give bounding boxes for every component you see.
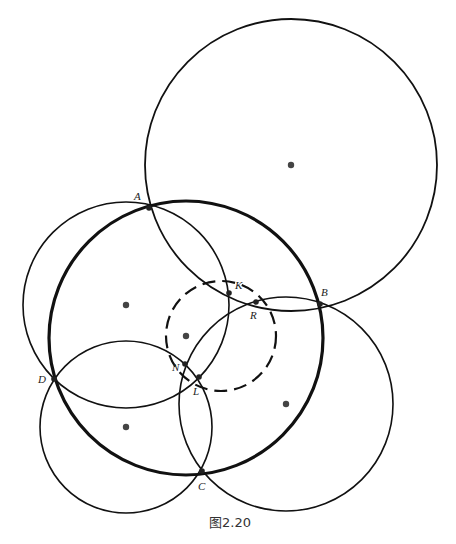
center-dot: [283, 401, 289, 407]
circle-dashed: [166, 281, 276, 391]
point-label-l: L: [192, 385, 199, 397]
geometry-figure: AKRBDNLC 图2.20: [0, 0, 456, 544]
point-label-b: B: [321, 286, 328, 298]
center-dot: [123, 424, 129, 430]
point-label-a: A: [133, 190, 141, 202]
point-label-n: N: [171, 361, 180, 373]
point-d: [51, 376, 57, 382]
point-n: [182, 361, 188, 367]
center-dot: [183, 333, 189, 339]
point-label-c: C: [198, 480, 206, 492]
center-dot: [123, 302, 129, 308]
point-label-d: D: [37, 373, 46, 385]
point-a: [146, 205, 152, 211]
circles-group: [23, 19, 437, 513]
point-c: [199, 468, 205, 474]
point-label-k: K: [234, 279, 243, 291]
labeled-points-group: AKRBDNLC: [37, 190, 328, 492]
point-k: [226, 290, 232, 296]
point-label-r: R: [249, 309, 257, 321]
figure-caption: 图2.20: [209, 515, 251, 530]
point-r: [253, 299, 259, 305]
point-l: [196, 374, 202, 380]
point-b: [317, 301, 323, 307]
center-dot: [288, 162, 294, 168]
